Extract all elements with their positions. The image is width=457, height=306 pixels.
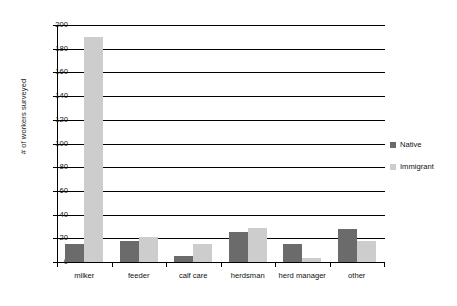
chart-legend: Native Immigrant (390, 140, 434, 184)
x-tick-mark (112, 262, 113, 267)
legend-item-immigrant: Immigrant (390, 162, 434, 171)
legend-item-native: Native (390, 140, 434, 149)
bar-group (275, 25, 330, 262)
x-tick-mark (57, 262, 58, 267)
bar-native-milker (65, 244, 84, 262)
legend-swatch-immigrant-icon (390, 164, 396, 170)
bar-native-other (338, 229, 357, 262)
bar-native-herdsman (229, 232, 248, 262)
x-tick-mark (166, 262, 167, 267)
x-tick-mark (384, 262, 385, 267)
bar-group (57, 25, 112, 262)
bar-group (221, 25, 276, 262)
x-tick-mark (330, 262, 331, 267)
bar-native-calf-care (174, 256, 193, 262)
bars-layer (57, 25, 384, 262)
bar-group (330, 25, 385, 262)
y-axis-title: # of workers surveyed (19, 52, 28, 182)
legend-label-native: Native (400, 140, 422, 149)
bar-immigrant-other (357, 241, 376, 262)
bar-immigrant-herd-manager (302, 258, 321, 262)
bar-group (112, 25, 167, 262)
bar-immigrant-herdsman (248, 228, 267, 262)
bar-immigrant-milker (84, 37, 103, 262)
legend-swatch-native-icon (390, 142, 396, 148)
x-tick-mark (221, 262, 222, 267)
bar-native-feeder (120, 241, 139, 262)
x-axis-label: other (322, 271, 392, 281)
bar-immigrant-calf-care (193, 244, 212, 262)
legend-label-immigrant: Immigrant (400, 162, 434, 171)
bar-immigrant-feeder (139, 237, 158, 262)
bar-chart: # of workers surveyed 200180160140120100… (0, 0, 457, 306)
x-tick-mark (275, 262, 276, 267)
bar-native-herd-manager (283, 244, 302, 262)
bar-group (166, 25, 221, 262)
